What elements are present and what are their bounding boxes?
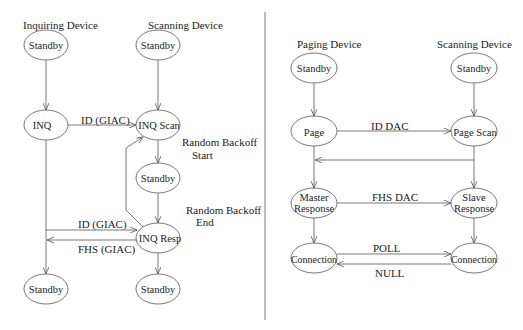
node-slave-response-line1: Slave bbox=[462, 192, 485, 203]
node-scan-standby-bottom: Standby bbox=[141, 284, 175, 295]
node-connection-right: Connection bbox=[451, 254, 497, 265]
edge-label-id-giac-2: ID (GIAC) bbox=[78, 218, 127, 230]
node-page: Page bbox=[304, 127, 324, 138]
header-scanning-device-left: Scanning Device bbox=[148, 19, 223, 31]
node-page-scan: Page Scan bbox=[453, 127, 496, 138]
node-scan-standby-mid: Standby bbox=[141, 173, 175, 184]
edge-label-fhs-dac: FHS DAC bbox=[372, 191, 418, 203]
node-master-response-line1: Master bbox=[299, 192, 328, 203]
node-inq: INQ bbox=[33, 120, 52, 131]
node-master-response-line2: Response bbox=[294, 203, 334, 214]
node-scan-standby: Standby bbox=[457, 63, 491, 74]
node-slave-response-line2: Response bbox=[454, 203, 494, 214]
node-inq-standby-bottom: Standby bbox=[29, 284, 63, 295]
edge-label-null: NULL bbox=[375, 267, 404, 279]
edge-label-poll: POLL bbox=[373, 242, 401, 254]
node-page-standby: Standby bbox=[297, 63, 331, 74]
annotation-backoff-end-line2: End bbox=[196, 216, 214, 228]
edge-label-fhs-giac: FHS (GIAC) bbox=[78, 243, 135, 255]
edge-label-id-giac: ID (GIAC) bbox=[81, 114, 130, 126]
node-inq-standby-top: Standby bbox=[29, 40, 63, 51]
diagram-canvas: Inquiring Device Scanning Device Standby… bbox=[0, 0, 523, 330]
node-scan-standby-top: Standby bbox=[141, 40, 175, 51]
annotation-backoff-end-line1: Random Backoff bbox=[186, 204, 261, 216]
node-inq-resp: INQ Resp bbox=[139, 233, 181, 244]
node-inq-scan: INQ Scan bbox=[138, 120, 180, 131]
header-scanning-device-right: Scanning Device bbox=[437, 38, 512, 50]
edge-label-id-dac: ID DAC bbox=[371, 120, 409, 132]
header-paging-device: Paging Device bbox=[297, 38, 361, 50]
annotation-backoff-start-line2: Start bbox=[192, 149, 213, 161]
header-inquiring-device: Inquiring Device bbox=[23, 19, 98, 31]
node-connection-left: Connection bbox=[291, 254, 337, 265]
annotation-backoff-start-line1: Random Backoff bbox=[182, 136, 257, 148]
